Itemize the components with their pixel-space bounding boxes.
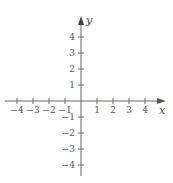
x-tick-label: −4 bbox=[10, 105, 24, 115]
y-tick-label: 3 bbox=[69, 48, 75, 58]
y-axis-arrow-icon bbox=[78, 16, 84, 25]
x-tick-labels: −4 −3 −2 −1 1 2 3 4 bbox=[10, 105, 148, 115]
y-tick-label: 1 bbox=[69, 80, 75, 90]
x-tick-label: 2 bbox=[110, 105, 116, 115]
x-tick-label: −2 bbox=[42, 105, 55, 115]
coordinate-plane: −4 −3 −2 −1 1 2 3 4 4 3 2 1 −1 −2 −3 −4 … bbox=[0, 0, 173, 183]
y-tick-label: −1 bbox=[62, 112, 75, 122]
y-tick-label: −4 bbox=[62, 160, 76, 170]
y-tick-label: 2 bbox=[69, 64, 75, 74]
x-tick-label: −3 bbox=[26, 105, 40, 115]
y-tick-label: 4 bbox=[69, 32, 75, 42]
y-axis-label: y bbox=[85, 14, 93, 27]
x-tick-label: 4 bbox=[142, 105, 148, 115]
x-axis-label: x bbox=[159, 104, 166, 117]
y-tick-label: −3 bbox=[62, 144, 76, 154]
x-tick-label: 1 bbox=[94, 105, 100, 115]
x-tick-label: 3 bbox=[126, 105, 132, 115]
y-tick-label: −2 bbox=[62, 128, 75, 138]
